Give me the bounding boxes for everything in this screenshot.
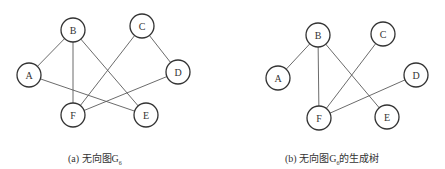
node-label: F [316, 113, 322, 124]
node-a: A [266, 66, 290, 90]
caption-b: (b) 无向图G6的生成树 [285, 150, 379, 166]
node-label: B [315, 30, 322, 41]
node-label: E [143, 110, 149, 121]
node-d: D [404, 63, 428, 87]
node-e: E [134, 103, 158, 127]
node-label: C [139, 21, 146, 32]
node-b: B [61, 18, 85, 42]
caption-b-text: 无向图G [299, 153, 336, 164]
caption-a: (a) 无向图G6 [68, 150, 122, 166]
node-label: A [25, 70, 33, 81]
figure-b-spanning-tree: ABCDEF [266, 22, 428, 130]
edge-b-e [318, 35, 387, 117]
node-label: D [174, 67, 181, 78]
node-f: F [61, 103, 85, 127]
node-label: D [412, 70, 419, 81]
node-label: C [380, 29, 387, 40]
caption-b-prefix: (b) [285, 153, 297, 164]
node-label: A [274, 73, 282, 84]
node-c: C [371, 22, 395, 46]
edge-d-f [319, 75, 416, 118]
edge-c-f [319, 34, 383, 118]
node-e: E [375, 105, 399, 129]
node-d: D [166, 60, 190, 84]
node-b: B [306, 23, 330, 47]
figure-a-undirected-graph: ABCDEF [17, 14, 190, 127]
caption-a-prefix: (a) [68, 153, 79, 164]
node-f: F [307, 106, 331, 130]
graph-canvas: ABCDEF ABCDEF [0, 0, 445, 169]
node-label: E [384, 112, 390, 123]
node-c: C [130, 14, 154, 38]
node-label: F [70, 110, 76, 121]
node-a: A [17, 63, 41, 87]
node-label: B [70, 25, 77, 36]
edge-d-f [73, 72, 178, 115]
caption-a-text: 无向图G [82, 153, 119, 164]
caption-b-suffix: 的生成树 [339, 153, 379, 164]
caption-a-subscript: 6 [119, 160, 122, 166]
